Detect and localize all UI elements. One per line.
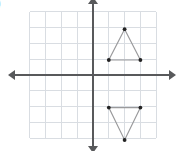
vertex-dot [139,58,143,62]
vertex-dot [107,106,111,110]
x-axis-left-arrow-icon [8,70,15,80]
graph-screenshot: ) [0,0,176,151]
axes [8,0,176,151]
vertex-dot [107,58,111,62]
vertex-dot [123,27,127,31]
vertex-dot [139,106,143,110]
x-axis-right-arrow-icon [169,70,176,80]
y-axis-down-arrow-icon [88,146,98,151]
graph-svg [0,0,176,151]
y-axis-up-arrow-icon [88,0,98,4]
coordinate-plane [0,0,176,151]
vertex-dot [123,138,127,142]
